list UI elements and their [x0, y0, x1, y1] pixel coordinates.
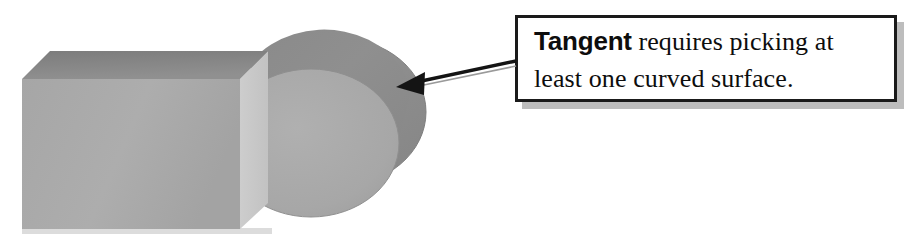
- box-side-face: [240, 51, 268, 229]
- box-front-face: [22, 79, 240, 229]
- callout-line-1: Tangent requires picking at: [534, 23, 894, 60]
- figure-canvas: Tangent requires picking at least one cu…: [0, 0, 918, 239]
- box-top-face: [22, 51, 268, 79]
- callout-box: Tangent requires picking at least one cu…: [515, 15, 897, 102]
- 3d-scene: [0, 0, 470, 239]
- box: [22, 51, 268, 229]
- callout-keyword: Tangent: [534, 26, 632, 56]
- scene-svg: [0, 0, 470, 239]
- callout-line-1-rest: requires picking at: [632, 27, 834, 56]
- callout-line-2: least one curved surface.: [534, 60, 894, 97]
- callout-text-block: Tangent requires picking at least one cu…: [518, 18, 894, 97]
